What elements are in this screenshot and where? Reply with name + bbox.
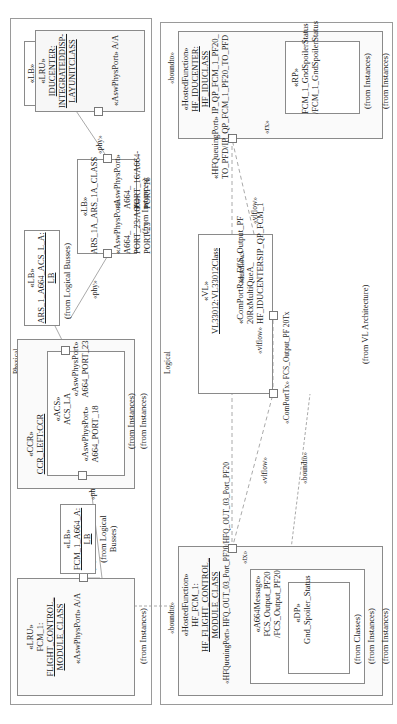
lru-idu-port-label: «AswPhysPort» A/A	[110, 35, 120, 106]
rp-name-2: /FCM_1_GndSpoilerStatus	[310, 41, 320, 114]
ccr-labels: «CCR» CCR_LEFT:CCR	[25, 399, 45, 489]
lru-fcm-stereotype: «LRU»	[25, 578, 35, 696]
lru-idu-name-2: INTEGRATEDDISP-	[57, 30, 67, 112]
hf-fcm-stereotype: «HostedFunction»	[180, 546, 190, 664]
acs-bottom-port-label: «AswPhysPort» A664_PORT_18	[80, 399, 100, 469]
dp-labels: «DP» Gnd_Spoiler_Status	[292, 582, 312, 644]
hf-fcm-boundto: «boundto»	[167, 602, 176, 634]
lru-fcm-labels: «LRU» FCM_1: FLIGHT_CONTROL_ MODULE_CLAS…	[25, 578, 65, 696]
lru-idu-labels: «LRU» IDUCENTER: INTEGRATEDDISP- LAYUNIT…	[37, 30, 77, 112]
a664-message-text: «A664Message» FCS_Output_PF20 /FCS_Outpu…	[252, 569, 282, 639]
rp-name-1: FCM_1_GndSpoilerStatus	[300, 41, 310, 114]
acs-from: (from Instances)	[126, 393, 136, 449]
hf-fcm-name-3: MODULE_CLASS	[210, 546, 220, 664]
hf-fcm-name-1: HF_FCM_1:	[190, 546, 200, 664]
lru-idu-name-1: IDUCENTER:	[47, 30, 57, 112]
ars-from: (from Instances)	[140, 178, 150, 234]
acs-labels: «ACS» ACS_LA	[52, 379, 72, 439]
lru-fcm-name-1: FCM_1:	[35, 578, 45, 696]
lb-fcm-stereotype: «LB»	[62, 504, 72, 574]
hf-idu-labels: «HostedFunction» HF_IDUCENTER: HF_IDUCLA…	[180, 34, 210, 124]
logical-frame-label: Logical	[163, 351, 172, 374]
ccr-stereotype: «CCR»	[25, 399, 35, 489]
dp-from: (from Classes)	[352, 614, 362, 664]
rp-stereotype: «RP»	[290, 41, 300, 114]
vl-from: (from VL Architecture)	[360, 285, 370, 364]
vl-tx-port[interactable]	[269, 389, 278, 398]
hf-idu-rx: «rx»	[262, 120, 271, 134]
ars-labels: «LB» ARS_1A_ARS_1A_CLASS	[79, 159, 99, 254]
hf-fcm-labels: «HostedFunction» HF_FCM_1: HF_FLIGHT_CON…	[180, 546, 220, 664]
a664-message-name-2: /FCS_Output_PF20	[272, 569, 282, 639]
vlflow-label-2: «vlflow»	[255, 327, 264, 354]
hf-fcm-port[interactable]	[228, 544, 237, 553]
lb-fcm-from: (from Logical Busses)	[98, 504, 118, 574]
vl-labels: «VL» VL33012:VL33012Class	[200, 236, 220, 346]
vl-rx-port[interactable]	[269, 311, 278, 320]
lb-ars-acs-labels: «LB» ARS_1_A664_ACS_L_A: LB	[26, 230, 56, 326]
ccr-from: (from Instances)	[138, 393, 148, 449]
lb-ars-acs-name-2: LB	[46, 230, 56, 326]
vl-stereotype: «VL»	[200, 236, 210, 346]
phy-label-3: «phy»	[90, 280, 99, 299]
lb-fcm-name-2: LB	[82, 504, 92, 574]
lru-idu-name-3: LAYUNITCLASS	[67, 30, 77, 112]
ars-left-port[interactable]	[103, 249, 112, 258]
acs-top-port[interactable]	[61, 346, 70, 355]
ars-right-port[interactable]	[103, 154, 112, 163]
lru-fcm-from: (from Instances)	[138, 608, 148, 664]
ars-stereotype: «LB»	[79, 159, 89, 254]
hf-idu-from: (from Instances)	[380, 53, 390, 109]
ccr-name: CCR_LEFT:CCR	[35, 399, 45, 489]
hf-fcm-from: (from Instances)	[380, 608, 390, 664]
acs-bottom-port[interactable]	[78, 471, 87, 480]
rp-labels: «RP» FCM_1_GndSpoilerStatus /FCM_1_GndSp…	[290, 41, 320, 114]
diagram-canvas: Physical «LRU» FCM_1: FLIGHT_CONTROL_ MO…	[0, 0, 397, 724]
acs-stereotype: «ACS»	[52, 379, 62, 439]
lru-fcm-name-3: MODULE_CLASS	[55, 578, 65, 696]
a664-message-from: (from Instances)	[366, 608, 376, 664]
lb-ars-acs-name-1: ARS_1_A664_ACS_L_A:	[36, 230, 46, 326]
lb-fcm-labels: «LB» FCM_1_A664_A: LB	[62, 504, 92, 574]
rp-from: (from Instances)	[362, 53, 372, 109]
boundto-label: «boundto»	[300, 452, 309, 484]
vl-name: VL33012:VL33012Class	[210, 236, 220, 346]
hf-fcm-name-2: HF_FLIGHT_CONTROL_	[200, 546, 210, 664]
hf-idu-name-1: HF_IDUCENTER:	[190, 34, 200, 124]
ars-name: ARS_1A_ARS_1A_CLASS	[89, 159, 99, 254]
hf-idu-stereotype: «HostedFunction»	[180, 34, 190, 124]
a664-message-stereotype: «A664Message»	[252, 569, 262, 639]
hf-fcm-port-label: «HFQueuingPort» HFQ_OUT_03_Port_PF20/HFQ…	[222, 462, 231, 684]
vlflow-label-3: «vlflow»	[250, 197, 259, 224]
dataflow-label: «dataflow»	[237, 250, 246, 284]
lru-fcm-port-label: «AswPhysPort» A/A	[72, 593, 82, 664]
acs-top-port-label: «AswPhysPort» A664_PORT_23	[70, 334, 90, 404]
dp-name: Gnd_Spoiler_Status	[302, 582, 312, 644]
lru-fcm-port[interactable]	[79, 573, 88, 582]
vl-tx-label: «ComPortTx» FCS_Output_PF 20Tx	[282, 311, 291, 424]
lru-fcm-name-2: FLIGHT_CONTROL_	[45, 578, 55, 696]
vlflow-label-1: «vlflow»	[260, 457, 269, 484]
lru-idu-stereotype: «LRU»	[37, 30, 47, 112]
lb-fcm-name-1: FCM_1_A664_A:	[72, 504, 82, 574]
lb-ars-acs-stereotype: «LB»	[26, 230, 36, 326]
hf-idu-boundto: «boundto»	[167, 52, 176, 84]
lru-idu-port[interactable]	[94, 107, 103, 116]
a664-message-name-1: FCS_Output_PF20	[262, 569, 272, 639]
dp-stereotype: «DP»	[292, 582, 302, 644]
hf-fcm-tx: «tx»	[240, 551, 249, 564]
phy-label-4: «phy»	[95, 135, 104, 154]
lb-ars-acs-from: (from Logical Busses)	[62, 243, 72, 319]
hf-idu-name-2: HF_IDUCLASS	[200, 34, 210, 124]
hf-idu-port-label: «HFQueuingPort» IP_QP_FCM_1_PF20_ TO_PFD…	[210, 29, 230, 179]
